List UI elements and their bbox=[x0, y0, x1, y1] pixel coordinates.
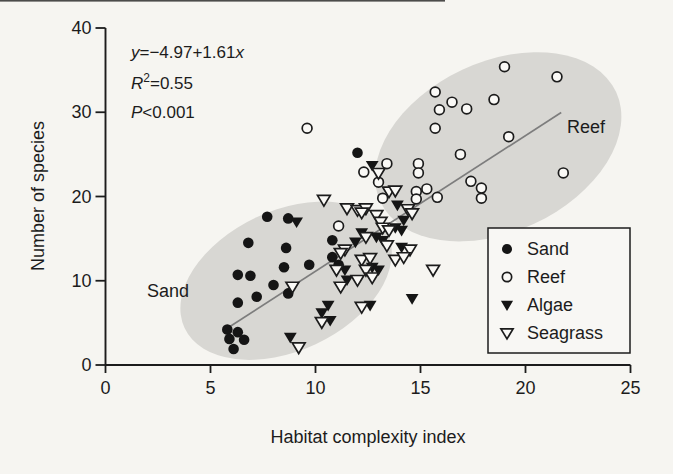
point-open-circle bbox=[414, 159, 424, 169]
point-filled-circle bbox=[243, 238, 254, 249]
y-tick-label: 30 bbox=[71, 102, 91, 122]
r-squared-text: R2=0.55 bbox=[131, 71, 193, 93]
reef-region-label: Reef bbox=[567, 117, 606, 137]
point-open-circle bbox=[447, 97, 457, 107]
point-open-circle bbox=[477, 193, 487, 203]
point-filled-circle bbox=[327, 235, 338, 246]
point-open-circle bbox=[302, 123, 312, 133]
point-open-circle bbox=[432, 192, 442, 202]
x-tick-label: 25 bbox=[620, 378, 640, 398]
point-open-circle bbox=[382, 159, 392, 169]
point-filled-circle bbox=[224, 334, 235, 345]
regression-annotation: y=−4.97+1.61x R2=0.55 P<0.001 bbox=[130, 43, 244, 122]
point-filled-circle bbox=[239, 334, 250, 345]
y-axis-title: Number of species bbox=[28, 121, 48, 271]
legend: Sand Reef Algae Seagrass bbox=[488, 228, 630, 353]
legend-label-algae: Algae bbox=[527, 295, 573, 315]
point-filled-circle bbox=[304, 259, 315, 270]
point-open-circle bbox=[502, 272, 511, 281]
legend-label-sand: Sand bbox=[527, 239, 569, 259]
point-filled-triangle bbox=[406, 294, 419, 305]
legend-label-seagrass: Seagrass bbox=[527, 323, 603, 343]
point-open-circle bbox=[477, 183, 487, 193]
point-filled-circle bbox=[233, 270, 244, 281]
point-open-circle bbox=[411, 194, 421, 204]
point-open-circle bbox=[462, 104, 472, 114]
point-open-circle bbox=[489, 95, 499, 105]
sand-ellipse bbox=[155, 170, 417, 392]
point-filled-circle bbox=[262, 211, 273, 222]
point-filled-circle bbox=[327, 252, 338, 263]
point-open-circle bbox=[430, 123, 440, 133]
point-filled-circle bbox=[268, 280, 279, 291]
point-open-circle bbox=[504, 132, 514, 142]
point-filled-circle bbox=[228, 344, 239, 355]
point-open-circle bbox=[466, 176, 476, 186]
sand-region-label: Sand bbox=[147, 281, 189, 301]
point-open-circle bbox=[500, 62, 510, 72]
point-filled-circle bbox=[233, 297, 244, 308]
point-filled-triangle bbox=[395, 226, 408, 237]
scan-artifact-line bbox=[0, 0, 445, 2]
scatter-plot-figure: 0102030400510152025 Sand Reef y=−4.97+1.… bbox=[0, 0, 673, 474]
y-tick-label: 0 bbox=[81, 355, 91, 375]
x-tick-label: 10 bbox=[305, 378, 325, 398]
x-tick-label: 0 bbox=[100, 378, 110, 398]
x-tick-label: 15 bbox=[410, 378, 430, 398]
chart-canvas: 0102030400510152025 Sand Reef y=−4.97+1.… bbox=[0, 0, 673, 474]
point-open-circle bbox=[435, 105, 445, 115]
point-open-triangle bbox=[427, 265, 440, 276]
point-open-circle bbox=[414, 168, 424, 178]
x-tick-label: 20 bbox=[515, 378, 535, 398]
x-tick-label: 5 bbox=[205, 378, 215, 398]
point-filled-circle bbox=[245, 270, 256, 281]
legend-label-reef: Reef bbox=[527, 267, 566, 287]
y-tick-label: 20 bbox=[71, 187, 91, 207]
point-filled-circle bbox=[279, 262, 290, 273]
point-filled-circle bbox=[222, 324, 233, 335]
p-value-text: P<0.001 bbox=[131, 103, 195, 122]
point-open-circle bbox=[359, 167, 369, 177]
point-open-circle bbox=[552, 72, 562, 82]
point-open-circle bbox=[334, 221, 344, 231]
equation-text: y=−4.97+1.61x bbox=[130, 43, 244, 62]
point-open-circle bbox=[430, 87, 440, 97]
point-open-circle bbox=[378, 193, 388, 203]
point-filled-circle bbox=[502, 244, 512, 254]
point-open-circle bbox=[422, 184, 432, 194]
point-filled-circle bbox=[352, 147, 363, 158]
y-tick-label: 40 bbox=[71, 18, 91, 38]
point-open-circle bbox=[558, 168, 568, 178]
point-open-circle bbox=[456, 149, 466, 159]
y-tick-label: 10 bbox=[71, 271, 91, 291]
point-filled-circle bbox=[281, 243, 292, 254]
x-axis-title: Habitat complexity index bbox=[270, 427, 465, 447]
point-filled-circle bbox=[251, 291, 262, 302]
